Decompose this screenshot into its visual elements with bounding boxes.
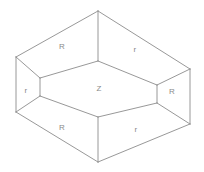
isometric-box-figure (0, 0, 204, 172)
label-left-face: r (25, 87, 28, 95)
label-right-face: R (169, 88, 175, 96)
label-bottom-right-face: r (135, 126, 138, 134)
diagram-canvas: R r r Z R R r (0, 0, 204, 172)
label-top-right-face: r (134, 46, 137, 54)
label-top-left-face: R (59, 43, 65, 51)
label-bottom-left-face: R (59, 124, 65, 132)
label-center-face: Z (96, 85, 101, 93)
figure-faces (16, 11, 190, 162)
